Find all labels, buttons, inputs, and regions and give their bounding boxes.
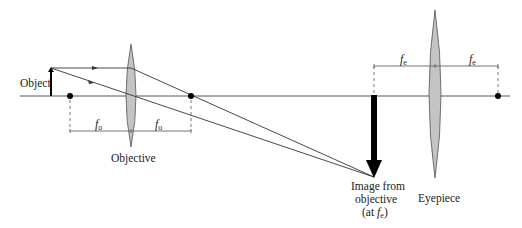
object-label: Object bbox=[20, 77, 51, 90]
focal-point-objective-right bbox=[188, 93, 194, 99]
eyepiece-label: Eyepiece bbox=[418, 192, 460, 205]
ray-arrow-icon bbox=[92, 66, 98, 70]
image-label-line1: Image from bbox=[351, 180, 405, 193]
eyepiece-lens bbox=[429, 10, 441, 178]
microscope-diagram: Object Objective Eyepiece Image from obj… bbox=[0, 0, 522, 228]
image-arrow bbox=[366, 95, 382, 178]
focal-label-objective-left: fo bbox=[95, 117, 102, 132]
objective-label: Objective bbox=[111, 152, 156, 165]
focal-label-eyepiece-left: fe bbox=[400, 52, 407, 67]
focal-label-eyepiece-right: fe bbox=[469, 52, 476, 67]
focal-point-eyepiece-right bbox=[495, 93, 501, 99]
image-label-line3: (at fe) bbox=[362, 205, 388, 220]
focal-point-objective-left bbox=[67, 93, 73, 99]
focal-label-objective-right: fo bbox=[155, 117, 162, 132]
